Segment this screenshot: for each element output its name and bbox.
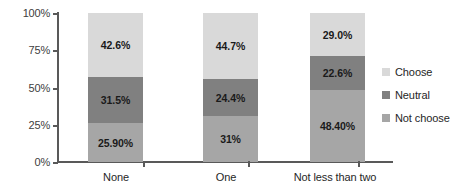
stacked-bar-chart: 0%25%50%75%100% 25.90%31.5%42.6%31%24.4%… [0, 0, 470, 195]
legend-item-label: Neutral [395, 89, 430, 101]
legend-item[interactable]: Choose [382, 66, 450, 78]
bar-segment[interactable]: 24.4% [203, 79, 258, 115]
y-axis-tick [53, 50, 58, 52]
legend-item-label: Choose [395, 66, 432, 78]
bar-segment[interactable]: 31.5% [88, 77, 143, 124]
bar-group[interactable]: 48.40%22.6%29.0% [310, 13, 365, 162]
bar-segment-value-label: 25.90% [98, 137, 133, 149]
y-axis-tick [53, 162, 58, 164]
y-axis-tick-label: 0% [35, 156, 51, 168]
legend-swatch-icon [382, 91, 390, 99]
bar-group[interactable]: 31%24.4%44.7% [203, 13, 258, 162]
y-axis-tick-label: 50% [29, 82, 50, 94]
y-axis-tick [53, 125, 58, 127]
x-axis-category-label: None [103, 171, 129, 183]
bar-segment-value-label: 31.5% [101, 94, 130, 106]
y-axis-tick [53, 88, 58, 90]
legend-item[interactable]: Not choose [382, 112, 450, 124]
bar-segment[interactable]: 29.0% [310, 13, 365, 56]
y-axis-tick-label: 75% [29, 44, 50, 56]
bar-segment[interactable]: 22.6% [310, 56, 365, 90]
plot-area: 0%25%50%75%100% 25.90%31.5%42.6%31%24.4%… [58, 13, 368, 162]
bar-segment-value-label: 24.4% [216, 92, 245, 104]
bar-segment-value-label: 48.40% [320, 120, 355, 132]
bar-segment[interactable]: 31% [203, 116, 258, 162]
bar-segment-value-label: 29.0% [323, 29, 352, 41]
bar-segment[interactable]: 44.7% [203, 13, 258, 80]
bar-segment-value-label: 44.7% [216, 40, 245, 52]
bar-group[interactable]: 25.90%31.5%42.6% [88, 13, 143, 162]
x-axis-tick [248, 161, 250, 167]
bar-segment-value-label: 31% [220, 133, 241, 145]
legend-swatch-icon [382, 114, 390, 122]
legend-item-label: Not choose [395, 112, 450, 124]
x-axis-category-label: One [216, 171, 237, 183]
x-axis-tick [143, 161, 145, 167]
bar-segment[interactable]: 48.40% [310, 90, 365, 162]
bar-segment[interactable]: 25.90% [88, 123, 143, 162]
legend-item[interactable]: Neutral [382, 89, 450, 101]
legend-swatch-icon [382, 68, 390, 76]
y-axis-tick [53, 13, 58, 15]
bar-segment[interactable]: 42.6% [88, 13, 143, 76]
y-axis-tick-label: 25% [29, 119, 50, 131]
x-axis-tick [358, 161, 360, 167]
y-axis-tick-label: 100% [23, 7, 50, 19]
x-axis-category-label: Not less than two [294, 171, 377, 183]
bar-segment-value-label: 42.6% [101, 39, 130, 51]
bar-segment-value-label: 22.6% [323, 67, 352, 79]
legend: ChooseNeutralNot choose [382, 66, 450, 124]
